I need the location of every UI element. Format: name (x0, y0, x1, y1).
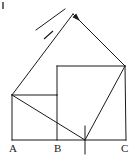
inner-square-right-side (125, 66, 126, 140)
vertex-label-c: C (121, 143, 128, 154)
tilted-square-left-side (12, 14, 73, 95)
tick-cross-upper (36, 9, 65, 30)
vertex-label-b: B (54, 143, 61, 154)
diagonal-P-to-Q (85, 66, 125, 140)
diagram-canvas (0, 0, 135, 159)
hash-on-left-tilted-side (44, 31, 53, 39)
diagonal-L-to-P (12, 95, 85, 140)
tilted-square-top-side (73, 14, 125, 66)
segment-layer (12, 9, 126, 154)
hash-mark-layer (44, 31, 53, 39)
geometry-figure: A B C (0, 0, 135, 159)
vertex-label-a: A (9, 143, 17, 154)
